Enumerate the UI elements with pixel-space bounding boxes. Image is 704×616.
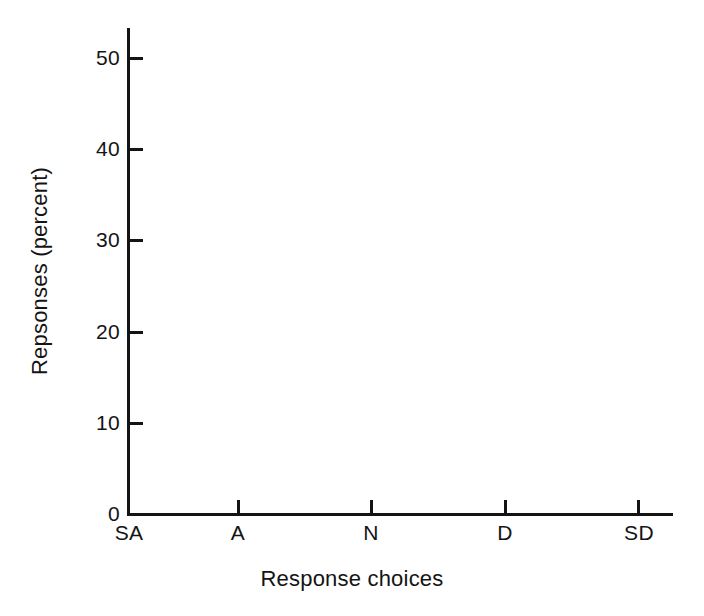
x-tick-sd [637,500,640,513]
y-axis-title: Repsonses (percent) [27,121,53,421]
y-tick-50 [130,57,143,60]
y-tick-30 [130,239,143,242]
y-tick-10 [130,422,143,425]
x-tick-label-sa: SA [89,521,169,545]
x-axis-title: Response choices [0,566,704,592]
chart-figure: 50 40 30 20 10 0 SA A N D SD Repsonses (… [0,0,704,616]
x-tick-n [370,500,373,513]
x-tick-a [237,500,240,513]
y-tick-20 [130,331,143,334]
x-tick-label-a: A [198,521,278,545]
y-tick-40 [130,148,143,151]
plot-area [130,28,673,513]
x-axis-line [127,513,673,516]
y-tick-label-50-wrap: 50 [36,47,120,68]
x-tick-d [504,500,507,513]
x-tick-label-n: N [331,521,411,545]
y-tick-label-50: 50 [36,47,120,68]
x-tick-label-d: D [465,521,545,545]
x-tick-label-sd: SD [599,521,679,545]
